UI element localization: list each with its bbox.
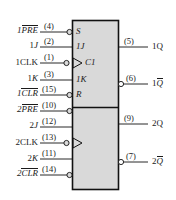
pin-number-5: (5)	[124, 37, 134, 46]
output-label-1qnot-bar: Q	[157, 79, 164, 88]
output-label-2q: 2Q	[152, 119, 163, 128]
bubble-1qn	[118, 81, 123, 86]
input-label-1clk: 1CLK	[0, 58, 38, 67]
output-label-2qnot: 2Q	[152, 157, 163, 166]
input-label-1j: 1J	[0, 41, 38, 50]
pin-number-15: (15)	[42, 85, 56, 94]
inner-label-r: R	[76, 90, 82, 99]
input-label-2pre: 2PRE	[0, 105, 38, 114]
pin-number-7: (7)	[126, 152, 136, 161]
output-label-2qnot-bar: Q	[157, 157, 164, 166]
input-label-1k: 1K	[0, 74, 38, 83]
output-label-1q: 1Q	[152, 42, 163, 51]
pin-number-11: (11)	[42, 149, 56, 158]
inner-label-1j: 1J	[76, 42, 85, 51]
input-label-2pre-bar: PRE	[22, 105, 39, 114]
pin-number-1: (1)	[44, 53, 54, 62]
input-label-2clr: 2CLR	[0, 169, 38, 178]
input-label-1pre: 1PRE	[0, 26, 38, 35]
bubble-2pre	[67, 108, 72, 113]
inner-label-c1: C1	[85, 58, 96, 67]
output-label-1qnot: 1Q	[152, 79, 163, 88]
pin-number-14: (14)	[42, 165, 56, 174]
input-label-2clk: 2CLK	[0, 138, 38, 147]
bubble-1clk	[64, 60, 69, 65]
input-label-1pre-bar: PRE	[22, 26, 39, 35]
inner-label-1k: 1K	[76, 75, 87, 84]
input-label-2k-italic: K	[32, 153, 38, 163]
pin-number-2: (2)	[44, 37, 54, 46]
input-label-1clr: 1CLR	[0, 89, 38, 98]
pin-number-9: (9)	[124, 114, 134, 123]
pin-number-4: (4)	[44, 22, 54, 31]
pin-number-3: (3)	[44, 70, 54, 79]
input-label-2j: 2J	[0, 121, 38, 130]
input-label-2clr-bar: CLR	[21, 169, 38, 178]
pin-number-6: (6)	[126, 74, 136, 83]
bubble-1pre	[67, 29, 72, 34]
input-label-1j-italic: J	[34, 40, 38, 50]
bubble-1clr	[67, 92, 72, 97]
pin-number-13: (13)	[42, 133, 56, 142]
pin-number-12: (12)	[42, 117, 56, 126]
pin-number-10: (10)	[42, 101, 56, 110]
bubble-2clr	[67, 172, 72, 177]
input-label-2j-italic: J	[34, 120, 38, 130]
input-label-2k: 2K	[0, 154, 38, 163]
bubble-2qn	[118, 159, 123, 164]
bubble-2clk	[64, 140, 69, 145]
input-label-1clr-bar: CLR	[21, 89, 38, 98]
inner-label-s: S	[76, 27, 81, 36]
input-label-1k-italic: K	[32, 73, 38, 83]
